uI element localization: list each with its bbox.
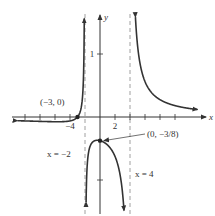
x-tick-label: 2 bbox=[113, 121, 118, 131]
asymptote-label: x = −2 bbox=[47, 149, 71, 159]
point-label: (0, −3/8) bbox=[147, 129, 179, 139]
rational-function-graph: xyx = −2x = 4−421(−3, 0)(0, −3/8) bbox=[0, 0, 215, 216]
point-label: (−3, 0) bbox=[40, 97, 65, 107]
right-branch bbox=[135, 17, 197, 109]
x-tick-label: −4 bbox=[65, 121, 75, 131]
marked-point bbox=[98, 138, 102, 142]
y-axis-label: y bbox=[103, 12, 108, 22]
middle-branch bbox=[86, 140, 124, 210]
marked-point bbox=[75, 115, 79, 119]
y-tick-label: 1 bbox=[90, 49, 95, 59]
asymptote-label: x = 4 bbox=[135, 169, 154, 179]
point-label-leader bbox=[104, 134, 145, 141]
x-axis-label: x bbox=[208, 112, 213, 122]
